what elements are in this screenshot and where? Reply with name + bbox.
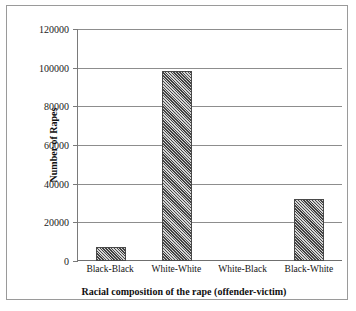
bar-white-white[interactable] xyxy=(162,71,192,261)
y-tick-label: 40000 xyxy=(44,178,69,189)
bar-slot xyxy=(144,29,210,261)
bar-black-white[interactable] xyxy=(294,199,324,261)
y-tick-mark xyxy=(73,68,78,69)
x-tick-label: Black-White xyxy=(276,264,342,274)
bars-layer xyxy=(78,29,342,261)
y-tick-label: 20000 xyxy=(44,217,69,228)
y-tick-label: 0 xyxy=(64,256,69,267)
x-tick-label: White-Black xyxy=(210,264,276,274)
y-tick-label: 100000 xyxy=(39,62,69,73)
x-tick-label: White-White xyxy=(143,264,209,274)
bar-slot xyxy=(276,29,342,261)
bar-chart-figure: Number of Rapes 020000400006000080000100… xyxy=(0,0,356,311)
y-tick-label: 60000 xyxy=(44,140,69,151)
bar-slot xyxy=(78,29,144,261)
y-tick-mark xyxy=(73,261,78,262)
x-axis-title: Racial composition of the rape (offender… xyxy=(13,286,355,297)
y-tick-mark xyxy=(73,222,78,223)
x-tick-labels: Black-BlackWhite-WhiteWhite-BlackBlack-W… xyxy=(77,264,342,274)
y-tick-mark xyxy=(73,145,78,146)
y-tick-label: 120000 xyxy=(39,24,69,35)
plot-area: 020000400006000080000100000120000 xyxy=(77,29,342,261)
y-tick-mark xyxy=(73,184,78,185)
y-tick-mark xyxy=(73,29,78,30)
y-tick-mark xyxy=(73,106,78,107)
y-tick-label: 80000 xyxy=(44,101,69,112)
figure-frame: Number of Rapes 020000400006000080000100… xyxy=(6,5,348,300)
bar-slot xyxy=(210,29,276,261)
x-tick-label: Black-Black xyxy=(77,264,143,274)
bar-black-black[interactable] xyxy=(96,247,126,261)
